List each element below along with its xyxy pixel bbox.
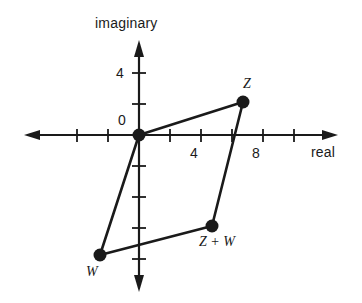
point-w [94,249,107,262]
complex-plane-plot [0,0,362,303]
real-axis-title: real [311,145,335,159]
point-label-w: W [86,265,98,279]
edge-origin-to-z [139,102,243,135]
point-label-z: Z [243,77,251,91]
x-tick-label-8: 8 [252,146,260,160]
origin-tick-label-0: 0 [118,113,126,127]
imaginary-axis [132,40,146,292]
real-axis-left-arrowhead [24,130,40,140]
point-z-plus-w [206,220,219,233]
point-origin [133,129,146,142]
complex-plane-figure: imaginary real 4 0 4 8 Z W Z + W [0,0,362,303]
point-z [237,96,250,109]
edge-zplusw-to-w [100,226,212,255]
imaginary-axis-title: imaginary [95,16,158,30]
real-axis-right-arrowhead [322,130,338,140]
point-label-z-plus-w: Z + W [199,235,235,249]
edge-z-to-zplusw [212,102,243,226]
edge-w-to-origin [100,135,139,255]
imaginary-axis-top-arrowhead [134,40,144,57]
y-tick-label-4: 4 [116,66,124,80]
imaginary-axis-bottom-arrowhead [134,275,144,292]
real-axis [24,129,338,142]
x-tick-label-4: 4 [190,146,198,160]
